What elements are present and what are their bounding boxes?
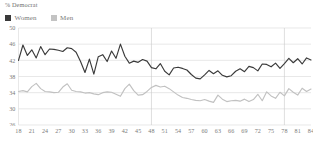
x-tick-label: 57 [188, 128, 194, 134]
square-swatch-icon [51, 15, 57, 21]
legend-item-men[interactable]: Men [51, 14, 74, 22]
x-tick-label: 75 [268, 128, 274, 134]
y-axis-tick-labels: 26303438424650 [9, 26, 15, 126]
x-tick-label: 72 [255, 128, 261, 134]
x-tick-label: 48 [148, 128, 154, 134]
x-tick-label: 63 [215, 128, 221, 134]
chart-legend: Women Men [5, 13, 73, 23]
y-tick-label: 26 [9, 122, 15, 126]
y-tick-label: 34 [9, 90, 15, 96]
data-series-lines [19, 44, 312, 102]
x-tick-label: 84 [308, 128, 313, 134]
horizontal-gridlines [19, 28, 312, 125]
square-swatch-icon [5, 15, 11, 21]
legend-item-women[interactable]: Women [5, 14, 37, 22]
x-tick-label: 30 [69, 128, 75, 134]
x-tick-label: 24 [42, 128, 48, 134]
x-tick-label: 60 [201, 128, 207, 134]
y-tick-label: 42 [9, 58, 15, 64]
x-tick-label: 36 [95, 128, 101, 134]
x-tick-label: 54 [175, 128, 181, 134]
plot-area: 26303438424650 [0, 26, 313, 126]
x-tick-label: 18 [15, 128, 21, 134]
y-tick-label: 30 [9, 106, 15, 112]
x-tick-label: 69 [241, 128, 247, 134]
chart-container: % Democrat Women Men 26303438424650 1821… [0, 0, 313, 145]
x-tick-label: 39 [108, 128, 114, 134]
x-tick-label: 33 [82, 128, 88, 134]
series-line-women [19, 44, 312, 79]
legend-label-women: Women [15, 14, 37, 22]
chart-title: % Democrat [5, 1, 38, 8]
y-tick-label: 50 [9, 26, 15, 31]
y-tick-label: 38 [9, 74, 15, 80]
x-tick-label: 81 [295, 128, 301, 134]
x-tick-label: 66 [228, 128, 234, 134]
y-tick-label: 46 [9, 41, 15, 47]
x-tick-label: 42 [122, 128, 128, 134]
x-tick-label: 27 [55, 128, 61, 134]
x-axis-tick-labels: 1821242730333639424548515457606366697275… [0, 128, 313, 142]
x-tick-label: 51 [162, 128, 168, 134]
chart-svg: 26303438424650 [0, 26, 313, 126]
x-tick-label: 78 [281, 128, 287, 134]
x-tick-label: 21 [29, 128, 35, 134]
legend-label-men: Men [60, 14, 73, 22]
x-tick-label: 45 [135, 128, 141, 134]
